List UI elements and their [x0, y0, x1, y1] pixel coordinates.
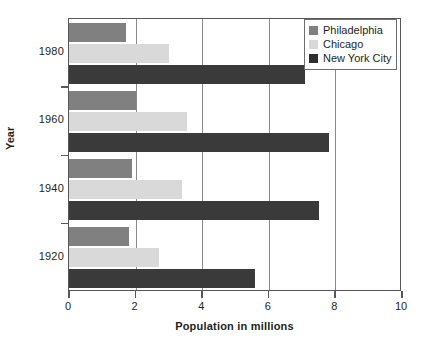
y-axis-labels: 1980196019401920: [12, 0, 64, 346]
x-axis-label-8: 8: [314, 300, 354, 312]
legend-item[interactable]: New York City: [309, 52, 391, 65]
legend-swatch-philadelphia: [309, 26, 318, 35]
x-axis-tick: [135, 291, 137, 298]
x-axis-tick: [68, 291, 70, 298]
bar-philadelphia-1940: [69, 159, 132, 178]
bar-chicago-1940: [69, 180, 182, 199]
x-axis-title: Population in millions: [68, 320, 401, 332]
legend: PhiladelphiaChicagoNew York City: [304, 19, 397, 70]
legend-swatch-nyc: [309, 54, 318, 63]
x-axis-tick: [334, 291, 336, 298]
bar-nyc-1940: [69, 201, 319, 220]
x-axis-label-10: 10: [381, 300, 421, 312]
x-axis-label-6: 6: [248, 300, 288, 312]
legend-swatch-chicago: [309, 40, 318, 49]
bar-group: [69, 156, 400, 224]
bar-philadelphia-1960: [69, 91, 136, 110]
legend-item[interactable]: Philadelphia: [309, 24, 391, 37]
bar-nyc-1980: [69, 65, 305, 84]
bar-chicago-1920: [69, 248, 159, 267]
y-axis-label-1980: 1980: [20, 45, 64, 57]
bar-philadelphia-1920: [69, 227, 129, 246]
bar-chicago-1960: [69, 112, 187, 131]
bar-philadelphia-1980: [69, 23, 126, 42]
bar-group: [69, 224, 400, 292]
bar-nyc-1920: [69, 269, 255, 288]
bar-nyc-1960: [69, 133, 329, 152]
bar-group: [69, 87, 400, 155]
x-axis-tick: [268, 291, 270, 298]
y-axis-label-1940: 1940: [20, 182, 64, 194]
bar-chicago-1980: [69, 44, 169, 63]
x-axis-label-4: 4: [181, 300, 221, 312]
x-axis-tick: [201, 291, 203, 298]
legend-label: Chicago: [323, 38, 363, 51]
x-axis-tick: [401, 291, 403, 298]
legend-label: New York City: [323, 52, 391, 65]
y-axis-label-1920: 1920: [20, 250, 64, 262]
y-axis-label-1960: 1960: [20, 113, 64, 125]
legend-label: Philadelphia: [323, 24, 383, 37]
legend-item[interactable]: Chicago: [309, 38, 391, 51]
x-axis-label-0: 0: [48, 300, 88, 312]
x-axis-label-2: 2: [115, 300, 155, 312]
bar-chart: Year 1980196019401920 0246810 Population…: [0, 0, 424, 346]
